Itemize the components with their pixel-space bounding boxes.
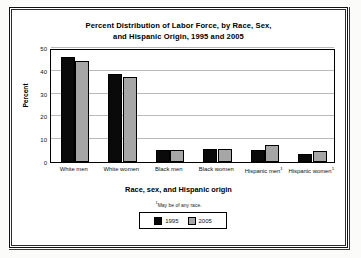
y-tick-label: 50	[31, 46, 47, 52]
y-axis-tick-labels: 50403020100	[31, 49, 47, 163]
y-tick-label: 30	[31, 92, 47, 98]
y-tick-label: 10	[31, 137, 47, 143]
chart-title-line2: and Hispanic Origin, 1995 and 2005	[21, 31, 336, 42]
plot-area	[50, 49, 335, 163]
legend-item-1995: 1995	[154, 217, 178, 225]
legend-swatch-1995	[154, 217, 162, 225]
x-axis-title: Race, sex, and Hispanic origin	[21, 185, 336, 194]
legend-swatch-2005	[188, 217, 196, 225]
figure-content: Percent Distribution of Labor Force, by …	[11, 9, 346, 246]
y-tick-label: 40	[31, 69, 47, 75]
y-axis-title: Percent	[22, 66, 29, 126]
gridline	[51, 115, 334, 116]
gridline	[51, 138, 334, 139]
bar-black-women-1995	[203, 149, 217, 162]
chart-footnote: 1May be of any race.	[21, 200, 336, 208]
gridline	[51, 47, 334, 48]
chart-title-line1: Percent Distribution of Labor Force, by …	[21, 20, 336, 31]
x-tick-label: White men	[50, 166, 98, 172]
bar-hispanic-men-1995	[251, 150, 265, 162]
bar-black-women-2005	[218, 149, 232, 162]
legend-label-1995: 1995	[165, 218, 178, 224]
x-tick-label: Black women	[193, 166, 241, 172]
legend-item-2005: 2005	[188, 217, 212, 225]
x-tick-label: Hispanic women1	[288, 166, 336, 174]
bar-black-men-1995	[156, 150, 170, 162]
bar-white-men-1995	[61, 57, 75, 162]
x-axis-tick-labels: White menWhite womenBlack menBlack women…	[50, 166, 335, 178]
bar-hispanic-women-2005	[313, 151, 327, 162]
y-tick-label: 0	[31, 160, 47, 166]
bar-black-men-2005	[170, 150, 184, 162]
gridline	[51, 70, 334, 71]
chart-title: Percent Distribution of Labor Force, by …	[21, 20, 336, 42]
bar-white-women-2005	[123, 77, 137, 162]
bar-hispanic-women-1995	[298, 154, 312, 162]
x-tick-label: Hispanic men1	[240, 166, 288, 174]
bar-hispanic-men-2005	[265, 145, 279, 162]
bar-white-women-1995	[108, 74, 122, 162]
chart-figure: Percent Distribution of Labor Force, by …	[0, 0, 361, 258]
y-tick-label: 20	[31, 114, 47, 120]
x-tick-label: Black men	[145, 166, 193, 172]
x-tick-label: White women	[98, 166, 146, 172]
gridline	[51, 93, 334, 94]
bar-white-men-2005	[75, 61, 89, 162]
chart-legend: 19952005	[139, 212, 227, 229]
legend-label-2005: 2005	[199, 218, 212, 224]
